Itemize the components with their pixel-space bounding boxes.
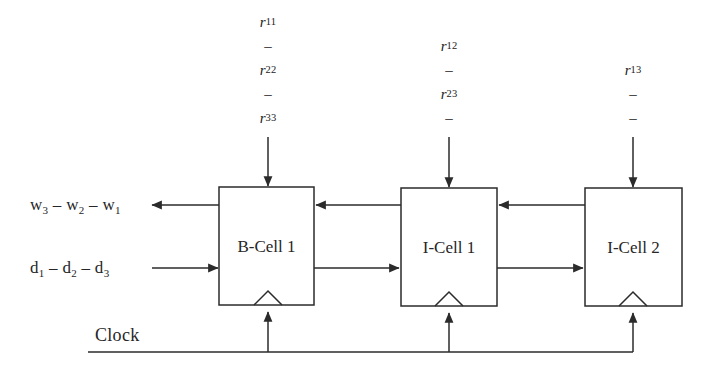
stream-row: – [419,58,479,82]
input-stream-i-cell-1: r12 – r23 – [419,34,479,130]
stream-row: – [238,82,298,106]
stream-row: – [603,106,663,130]
input-stream-b-cell-1: r11 – r22 – r33 [238,10,298,130]
input-stream-i-cell-2: r13 – – [603,58,663,130]
stream-row: r13 [603,58,663,82]
cell-label-b-cell-1: B-Cell 1 [219,238,314,255]
diagram-wiring [0,0,717,378]
stream-row: – [238,34,298,58]
stream-row: r23 [419,82,479,106]
stream-row: r22 [238,58,298,82]
stream-row: – [603,82,663,106]
cell-label-i-cell-1: I-Cell 1 [401,239,497,256]
stream-row: – [419,106,479,130]
clock-label: Clock [95,326,140,344]
cell-label-i-cell-2: I-Cell 2 [585,239,682,256]
w-output-label: w3 – w2 – w1 [30,196,121,216]
diagram-canvas: r11 – r22 – r33 r12 – r23 – r13 – – w3 –… [0,0,717,378]
stream-row: r33 [238,106,298,130]
stream-row: r11 [238,10,298,34]
d-input-label: d1 – d2 – d3 [30,259,109,279]
stream-row: r12 [419,34,479,58]
